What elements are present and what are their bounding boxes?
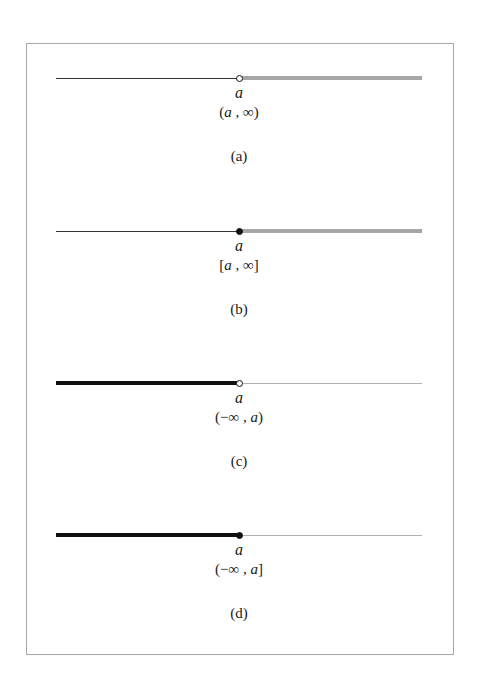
number-line-left-segment (56, 231, 239, 232)
panel-caption: (d) (0, 604, 478, 622)
interval-notation: (a , ∞) (0, 103, 478, 121)
endpoint-label: a (0, 389, 478, 407)
panel-c: a (−∞ , a) (c) (0, 305, 481, 457)
endpoint-label: a (0, 237, 478, 255)
endpoint-label: a (0, 84, 478, 102)
panel-d: a (−∞ , a] (d) (0, 457, 481, 609)
panel-a: a (a , ∞) (a) (0, 0, 481, 152)
endpoint-label: a (0, 541, 478, 559)
open-endpoint-icon (236, 75, 243, 82)
shaded-ray-right (242, 76, 422, 80)
closed-endpoint-icon (236, 532, 243, 539)
shaded-ray-left (56, 533, 237, 537)
closed-endpoint-icon (236, 228, 243, 235)
shaded-ray-right (242, 229, 422, 233)
panel-b: a [a , ∞] (b) (0, 153, 481, 305)
interval-notation: (−∞ , a) (0, 408, 478, 426)
interval-notation: [a , ∞] (0, 256, 478, 274)
number-line-right-segment (242, 383, 422, 384)
number-line-left-segment (56, 78, 239, 79)
shaded-ray-left (56, 381, 237, 385)
interval-notation: (−∞ , a] (0, 560, 478, 578)
open-endpoint-icon (236, 380, 243, 387)
number-line-right-segment (242, 535, 422, 536)
